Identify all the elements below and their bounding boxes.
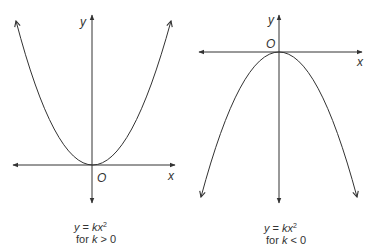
- parabola-up: [16, 21, 171, 165]
- equation: y = kx2: [74, 219, 116, 233]
- x-axis-label: x: [168, 170, 174, 182]
- equation: y = kx2: [264, 220, 306, 234]
- graph-k-negative: [199, 15, 362, 203]
- y-axis-label: y: [268, 14, 274, 26]
- y-axis-label: y: [80, 16, 86, 28]
- origin-label: O: [97, 172, 106, 184]
- condition: for k > 0: [74, 233, 116, 245]
- caption-k-negative: y = kx2 for k < 0: [264, 220, 306, 246]
- caption-k-positive: y = kx2 for k > 0: [74, 219, 116, 245]
- graph-k-positive: [13, 15, 175, 203]
- condition: for k < 0: [264, 234, 306, 246]
- x-axis-label: x: [357, 56, 363, 68]
- diagram-canvas: [0, 0, 367, 251]
- origin-label: O: [266, 38, 275, 50]
